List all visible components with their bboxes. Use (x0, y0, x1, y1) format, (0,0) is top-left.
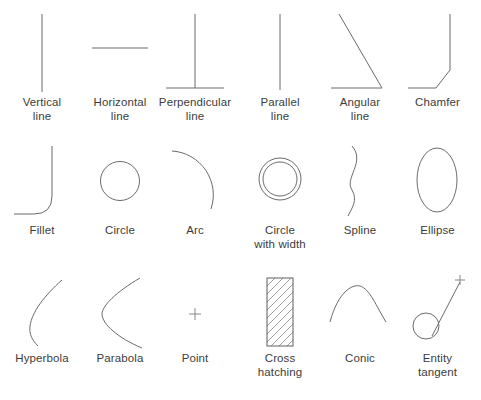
entity-label: Hyperbola (15, 352, 68, 366)
entity-label-line1: Circle (265, 224, 295, 236)
parabola-icon (84, 272, 156, 352)
entity-row-curves: Fillet Circle Arc (0, 138, 481, 266)
entity-label-line1: Ellipse (420, 224, 455, 236)
entity-label-line1: Arc (186, 224, 204, 236)
entity-label: Parallelline (260, 96, 299, 123)
entity-label-line2: line (340, 110, 380, 124)
entity-label-line1: Cross (265, 352, 296, 364)
entity-label-line1: Chamfer (415, 96, 460, 108)
entity-cell-horizontal-line[interactable]: Horizontalline (84, 8, 156, 130)
entity-label: Point (182, 352, 209, 366)
parallel-line-icon (234, 8, 326, 96)
entity-label-line2: tangent (418, 366, 457, 380)
entity-label: Arc (186, 224, 204, 238)
entity-tangent-icon (394, 272, 481, 352)
cross-hatching-icon (234, 272, 326, 352)
entity-label-line1: Perpendicular (159, 96, 231, 108)
entity-label: Spline (344, 224, 377, 238)
arc-icon (156, 138, 234, 224)
hyperbola-icon (0, 272, 84, 352)
entity-cell-fillet[interactable]: Fillet (0, 138, 84, 266)
ellipse-icon (394, 138, 481, 224)
entity-label: Perpendicularline (159, 96, 231, 123)
entity-cell-circle-with-width[interactable]: Circlewith width (234, 138, 326, 266)
entity-cell-spline[interactable]: Spline (326, 138, 394, 266)
entity-cell-parabola[interactable]: Parabola (84, 272, 156, 396)
entity-type-chart: Verticalline Horizontalline Perpendicula… (0, 0, 481, 400)
entity-cell-chamfer[interactable]: Chamfer (394, 8, 481, 130)
entity-label-line1: Parallel (260, 96, 299, 108)
circle-icon (84, 138, 156, 224)
horizontal-line-icon (84, 8, 156, 96)
chamfer-icon (394, 8, 481, 96)
entity-label: Entitytangent (418, 352, 457, 379)
entity-label: Verticalline (23, 96, 62, 123)
entity-label-line1: Hyperbola (15, 352, 68, 364)
conic-icon (326, 272, 394, 352)
entity-label: Fillet (30, 224, 55, 238)
entity-label-line1: Fillet (30, 224, 55, 236)
entity-label-line1: Point (182, 352, 209, 364)
entity-cell-entity-tangent[interactable]: Entitytangent (394, 272, 481, 396)
entity-label-line2: line (260, 110, 299, 124)
fillet-icon (0, 138, 84, 224)
circle-with-width-icon (234, 138, 326, 224)
entity-label-line1: Spline (344, 224, 377, 236)
entity-cell-vertical-line[interactable]: Verticalline (0, 8, 84, 130)
angular-line-icon (326, 8, 394, 96)
spline-icon (326, 138, 394, 224)
entity-label-line1: Angular (340, 96, 380, 108)
entity-label: Horizontalline (94, 96, 147, 123)
entity-label-line1: Vertical (23, 96, 62, 108)
entity-cell-point[interactable]: Point (156, 272, 234, 396)
entity-label-line1: Circle (105, 224, 135, 236)
entity-label: Parabola (97, 352, 144, 366)
entity-label: Circle (105, 224, 135, 238)
entity-cell-parallel-line[interactable]: Parallelline (234, 8, 326, 130)
entity-label-line2: line (94, 110, 147, 124)
entity-label-line2: with width (254, 238, 306, 252)
entity-label: Chamfer (415, 96, 460, 110)
point-icon (156, 272, 234, 352)
entity-row-lines: Verticalline Horizontalline Perpendicula… (0, 8, 481, 130)
entity-cell-arc[interactable]: Arc (156, 138, 234, 266)
entity-label: Crosshatching (258, 352, 302, 379)
entity-label: Conic (345, 352, 375, 366)
entity-label-line1: Parabola (97, 352, 144, 364)
entity-label-line1: Entity (423, 352, 452, 364)
entity-cell-hyperbola[interactable]: Hyperbola (0, 272, 84, 396)
entity-cell-perpendicular-line[interactable]: Perpendicularline (156, 8, 234, 130)
vertical-line-icon (0, 8, 84, 96)
entity-label-line2: line (159, 110, 231, 124)
entity-label: Circlewith width (254, 224, 306, 251)
entity-cell-circle[interactable]: Circle (84, 138, 156, 266)
entity-label: Ellipse (420, 224, 455, 238)
perpendicular-line-icon (156, 8, 234, 96)
entity-row-conics: Hyperbola Parabola Point (0, 272, 481, 396)
entity-cell-ellipse[interactable]: Ellipse (394, 138, 481, 266)
entity-cell-angular-line[interactable]: Angularline (326, 8, 394, 130)
entity-label: Angularline (340, 96, 380, 123)
entity-cell-conic[interactable]: Conic (326, 272, 394, 396)
entity-label-line1: Horizontal (94, 96, 147, 108)
entity-cell-cross-hatching[interactable]: Crosshatching (234, 272, 326, 396)
entity-label-line2: line (23, 110, 62, 124)
entity-label-line1: Conic (345, 352, 375, 364)
entity-label-line2: hatching (258, 366, 302, 380)
